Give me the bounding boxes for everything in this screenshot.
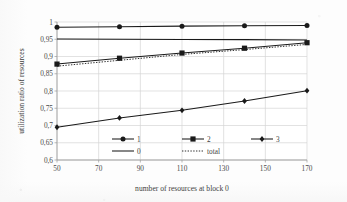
x-tick-label: 170 (302, 164, 313, 173)
y-tick-label: 0,95 (40, 35, 53, 44)
legend-label-0: 0 (137, 147, 141, 156)
x-tick-label: 50 (53, 164, 61, 173)
y-tick-label: 0,85 (40, 69, 53, 78)
x-axis-title: number of resources at block 0 (135, 184, 229, 193)
y-tick-label: 0,8 (44, 87, 53, 96)
x-tick-label: 150 (260, 164, 271, 173)
legend-label-2: 2 (207, 135, 211, 144)
legend-label-3: 3 (276, 135, 280, 144)
y-tick-labels: 0,60,650,70,750,80,850,90,951 (40, 18, 57, 165)
y-tick-label: 0,7 (44, 121, 53, 130)
x-tick-label: 90 (137, 164, 145, 173)
legend-marker-2 (190, 136, 195, 141)
y-tick-label: 0,9 (44, 52, 53, 61)
legend-label-total: total (207, 147, 220, 156)
data-point-1 (55, 25, 60, 30)
utilization-ratio-line-chart: 0,60,650,70,750,80,850,90,951 5070901101… (0, 0, 347, 202)
x-tick-labels: 507090110130150170 (53, 160, 312, 173)
data-point-1 (117, 24, 122, 29)
chart-figure: 0,60,650,70,750,80,850,90,951 5070901101… (0, 0, 347, 202)
y-tick-label: 0,6 (44, 156, 53, 165)
x-tick-label: 70 (95, 164, 103, 173)
y-axis-title: utilization ratio of resources (17, 48, 26, 133)
y-tick-label: 1 (49, 18, 53, 27)
y-tick-label: 0,65 (40, 138, 53, 147)
x-tick-label: 110 (177, 164, 188, 173)
y-tick-label: 0,75 (40, 104, 53, 113)
x-tick-label: 130 (218, 164, 229, 173)
data-point-1 (305, 23, 310, 28)
legend-marker-1 (121, 137, 126, 142)
data-point-1 (242, 23, 247, 28)
data-point-1 (180, 24, 185, 29)
figure-page: 0,60,650,70,750,80,850,90,951 5070901101… (0, 0, 347, 202)
data-point-2 (304, 40, 309, 45)
legend-label-1: 1 (137, 135, 141, 144)
